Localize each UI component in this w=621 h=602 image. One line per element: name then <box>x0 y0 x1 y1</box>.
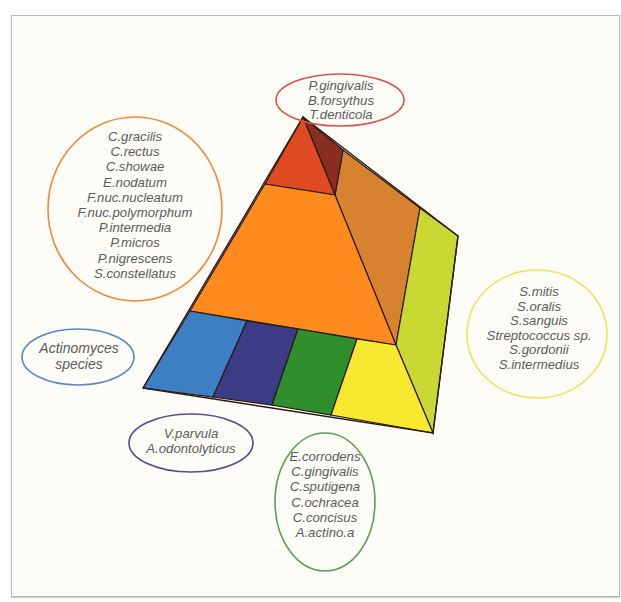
species-label: F.nuc.polymorphum <box>78 205 193 220</box>
orange-complex-label: C.gracilis C.rectus C.showae E.nodatum F… <box>78 129 193 281</box>
species-label: P.intermedia <box>78 220 193 235</box>
species-label: V.parvula <box>146 427 235 442</box>
species-label: Streptococcus sp. <box>487 329 592 344</box>
species-label: S.mitis <box>487 285 592 300</box>
species-label: P.nigrescens <box>78 251 193 266</box>
species-label: S.constellatus <box>78 266 193 281</box>
species-label: P.micros <box>78 235 193 250</box>
species-label: species <box>39 357 118 373</box>
species-label: P.gingivalis <box>308 79 374 94</box>
purple-complex-label: V.parvula A.odontolyticus <box>146 427 235 456</box>
species-label: S.gordonii <box>487 343 592 358</box>
species-label: C.ochracea <box>289 495 360 510</box>
species-label: A.odontolyticus <box>146 442 235 457</box>
species-label: E.corrodens <box>289 449 360 464</box>
yellow-complex-label: S.mitis S.oralis S.sanguis Streptococcus… <box>487 285 592 373</box>
species-label: C.rectus <box>78 144 193 159</box>
species-label: C.gracilis <box>78 129 193 144</box>
species-label: F.nuc.nucleatum <box>78 190 193 205</box>
species-label: S.intermedius <box>487 358 592 373</box>
species-label: C.sputigena <box>289 479 360 494</box>
green-complex-label: E.corrodens C.gingivalis C.sputigena C.o… <box>289 449 360 540</box>
red-complex-label: P.gingivalis B.forsythus T.denticola <box>308 79 374 123</box>
actinomyces-label: Actinomyces species <box>39 341 118 372</box>
species-label: C.gingivalis <box>289 464 360 479</box>
species-label: A.actino.a <box>289 525 360 540</box>
species-label: S.oralis <box>487 300 592 315</box>
species-label: S.sanguis <box>487 314 592 329</box>
species-label: Actinomyces <box>39 341 118 357</box>
species-label: T.denticola <box>308 108 374 123</box>
species-label: C.concisus <box>289 510 360 525</box>
species-label: C.showae <box>78 159 193 174</box>
species-label: E.nodatum <box>78 175 193 190</box>
species-label: B.forsythus <box>308 94 374 109</box>
